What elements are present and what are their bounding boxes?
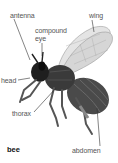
- label-head: head: [1, 77, 16, 84]
- label-abdomen: abdomen: [72, 147, 101, 154]
- antenna-leader: [14, 19, 30, 60]
- label-antenna: antenna: [10, 12, 35, 19]
- label-wing: wing: [89, 12, 103, 19]
- thorax-shape: [45, 65, 75, 91]
- bee-illustration: [0, 0, 118, 163]
- label-compound-eye-line2: eye: [35, 35, 46, 42]
- label-compound-eye-line1: compound: [35, 27, 67, 34]
- bee-diagram: antenna compound eye wing head thorax be…: [0, 0, 118, 163]
- diagram-title: bee: [7, 146, 20, 154]
- abdomen-leader: [97, 108, 100, 146]
- label-thorax: thorax: [12, 110, 31, 117]
- head-leader: [18, 78, 30, 80]
